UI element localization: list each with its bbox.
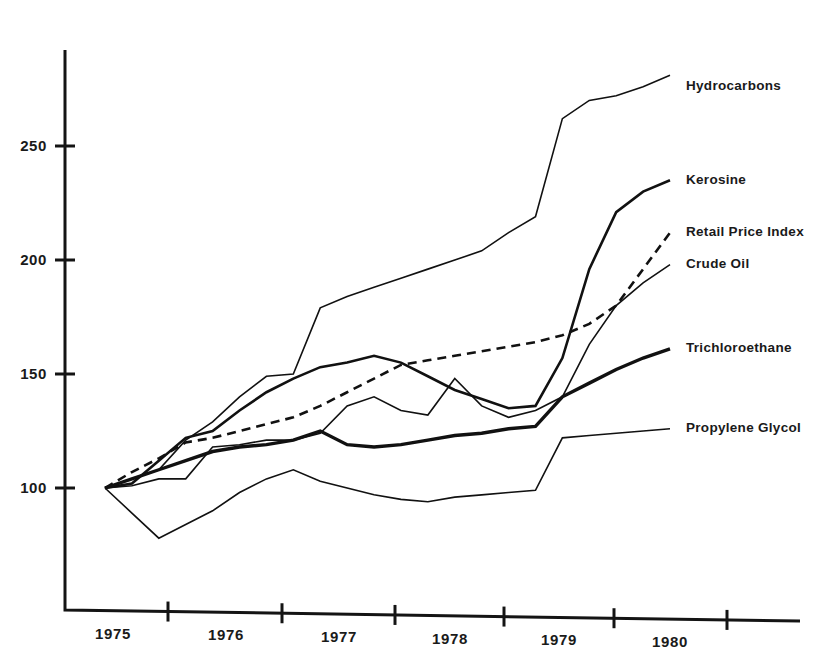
x-axis-tick-label: 1979: [541, 631, 577, 648]
x-axis-tick-label: 1977: [321, 628, 357, 645]
series-line-crude-oil: [105, 265, 670, 488]
x-axis-tick-label: 1976: [208, 626, 244, 643]
chart-series-group: [105, 75, 670, 538]
chart-canvas: 100150200250197519761977197819791980 Hyd…: [0, 0, 819, 665]
axis-lines: [65, 50, 800, 621]
y-axis-tick-label: 150: [20, 365, 47, 382]
x-axis-tick-label: 1978: [432, 630, 468, 647]
series-line-trichloroethane: [105, 349, 670, 488]
y-axis-tick-label: 200: [20, 251, 47, 268]
line-chart: 100150200250197519761977197819791980 Hyd…: [0, 0, 819, 665]
series-label-retail-price-index: Retail Price Index: [686, 224, 804, 239]
chart-series-labels: HydrocarbonsKerosineRetail Price IndexCr…: [686, 78, 804, 435]
y-axis-tick-label: 250: [20, 137, 47, 154]
chart-axes: 100150200250197519761977197819791980: [20, 50, 800, 650]
x-axis-tick-label: 1975: [95, 625, 131, 642]
series-label-propylene-glycol: Propylene Glycol: [686, 420, 801, 435]
series-label-kerosine: Kerosine: [686, 172, 746, 187]
y-axis-tick-label: 100: [20, 479, 47, 496]
series-label-crude-oil: Crude Oil: [686, 256, 749, 271]
series-label-hydrocarbons: Hydrocarbons: [686, 78, 781, 93]
series-label-trichloroethane: Trichloroethane: [686, 340, 792, 355]
x-axis-tick-label: 1980: [652, 633, 688, 650]
